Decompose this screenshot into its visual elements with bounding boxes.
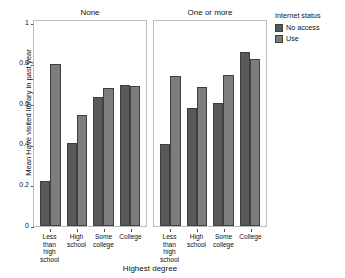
- panel-one-or-more: One or more: [153, 6, 267, 227]
- x-tick-label: Some college: [210, 229, 237, 269]
- legend-item-label: Use: [286, 34, 299, 43]
- legend-item-use[interactable]: Use: [275, 34, 345, 43]
- facet-panels: None One or more: [33, 6, 267, 227]
- plot-area: [153, 20, 267, 227]
- y-tick-label: 1: [25, 19, 29, 26]
- y-tick-label: 0.6: [19, 100, 29, 107]
- bar: [67, 143, 77, 226]
- x-tick-mark: [224, 229, 225, 232]
- bar-group: [64, 21, 91, 226]
- bar-group: [37, 21, 64, 226]
- y-tick-label: 0.2: [19, 181, 29, 188]
- bar: [170, 76, 180, 226]
- x-tick-label: High school: [63, 229, 90, 269]
- x-axis: Less than high schoolHigh schoolSome col…: [33, 229, 267, 269]
- x-tick-mark: [77, 229, 78, 232]
- bar: [187, 108, 197, 226]
- panel-none: None: [33, 6, 147, 227]
- x-tick-text: Less than high school: [40, 233, 59, 263]
- bar-group-container: [154, 21, 266, 226]
- bar: [250, 59, 260, 226]
- bar: [213, 103, 223, 226]
- panel-strip-label: None: [33, 6, 147, 20]
- x-tick-mark: [104, 229, 105, 232]
- x-tick-text: Some college: [93, 233, 114, 248]
- bar: [40, 181, 50, 226]
- x-tick-label: Less than high school: [156, 229, 183, 269]
- x-tick-text: High school: [67, 233, 86, 248]
- bar: [77, 115, 87, 226]
- bar: [93, 97, 103, 226]
- y-axis: 0 0.2 0.4 0.6 0.8 1: [0, 0, 34, 278]
- x-tick-mark: [170, 229, 171, 232]
- x-tick-mark: [197, 229, 198, 232]
- bar: [120, 85, 130, 226]
- x-tick-label: College: [117, 229, 144, 269]
- bar-group-container: [34, 21, 146, 226]
- legend-title: Internet status: [275, 11, 345, 20]
- bar-group: [237, 21, 264, 226]
- legend-swatch-icon: [275, 35, 283, 43]
- panel-strip-label: One or more: [153, 6, 267, 20]
- x-axis-title: Highest degree: [30, 264, 270, 273]
- x-tick-text: College: [239, 233, 261, 240]
- bar-group: [90, 21, 117, 226]
- y-tick-label: 0.4: [19, 140, 29, 147]
- bar: [103, 88, 113, 226]
- x-tick-mark: [50, 229, 51, 232]
- x-tick-text: Some college: [213, 233, 234, 248]
- bar: [223, 75, 233, 226]
- x-axis-panel: Less than high schoolHigh schoolSome col…: [153, 229, 267, 269]
- bar-chart: Mean Have visited library in past year 0…: [0, 0, 345, 278]
- bar: [240, 52, 250, 226]
- bar: [130, 86, 140, 226]
- x-tick-mark: [251, 229, 252, 232]
- y-tick-label: 0: [25, 222, 29, 229]
- bar: [197, 87, 207, 226]
- bar-group: [184, 21, 211, 226]
- plot-area: [33, 20, 147, 227]
- x-tick-mark: [131, 229, 132, 232]
- x-axis-panel: Less than high schoolHigh schoolSome col…: [33, 229, 147, 269]
- x-tick-text: College: [119, 233, 141, 240]
- x-tick-label: Some college: [90, 229, 117, 269]
- x-tick-label: High school: [183, 229, 210, 269]
- bar: [160, 144, 170, 226]
- bar-group: [117, 21, 144, 226]
- x-tick-label: College: [237, 229, 264, 269]
- x-tick-text: Less than high school: [160, 233, 179, 263]
- legend: Internet status No access Use: [275, 11, 345, 45]
- y-tick-mark: [31, 227, 34, 228]
- bar-group: [157, 21, 184, 226]
- y-tick-label: 0.8: [19, 59, 29, 66]
- legend-item-label: No access: [286, 23, 320, 32]
- legend-swatch-icon: [275, 24, 283, 32]
- bar: [50, 64, 60, 226]
- x-tick-text: High school: [187, 233, 206, 248]
- bar-group: [210, 21, 237, 226]
- legend-item-no-access[interactable]: No access: [275, 23, 345, 32]
- x-tick-label: Less than high school: [36, 229, 63, 269]
